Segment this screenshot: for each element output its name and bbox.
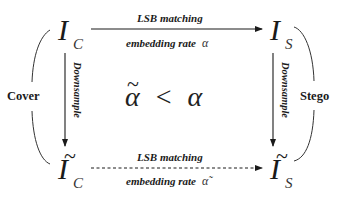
less-than-operator: < — [156, 83, 172, 111]
rate-alpha-tilde: α̃ — [202, 174, 208, 188]
stego-group-label: Stego — [300, 90, 329, 103]
cover-bracket-bottom — [32, 111, 50, 164]
bottom-edge-label-above: LSB matching — [137, 152, 203, 163]
top-edge-label-below: embedding rateα — [126, 37, 208, 49]
cover-group-label: Cover — [7, 90, 40, 103]
cover-image-subscript: C — [73, 36, 83, 52]
rate-relation: ~α<α — [125, 83, 202, 111]
right-downsample-label: Downsample — [280, 62, 291, 118]
cover-bracket-top — [32, 30, 50, 82]
tilde-accent: ~ — [276, 145, 288, 167]
embedding-rate-text: embedding rate — [126, 37, 196, 49]
left-downsample-label: Downsample — [72, 62, 83, 118]
downsampled-cover-node: ~ IC — [58, 154, 83, 184]
cover-image-symbol: I — [58, 13, 68, 46]
alpha-symbol: α — [188, 83, 203, 111]
tilde-accent: ~ — [127, 73, 139, 95]
stego-image-subscript: S — [285, 36, 293, 52]
stego-image-symbol: I — [270, 13, 280, 46]
downsampled-stego-node: ~ IS — [270, 154, 293, 184]
stego-bracket-bottom — [294, 110, 314, 161]
bottom-edge-label-below: embedding rateα̃ — [126, 175, 208, 187]
tilde-accent: ~ — [64, 145, 76, 167]
downsampled-cover-subscript: C — [73, 175, 83, 191]
stego-bracket-top — [294, 27, 314, 81]
embedding-rate-text: embedding rate — [126, 175, 196, 187]
diagram-canvas: IC IS ~ IC ~ IS LSB matching embedding r… — [0, 0, 348, 197]
downsampled-stego-subscript: S — [285, 175, 293, 191]
cover-image-node: IC — [58, 15, 83, 45]
alpha-tilde-symbol: ~α — [125, 83, 140, 111]
stego-image-node: IS — [270, 15, 293, 45]
top-edge-label-above: LSB matching — [137, 13, 203, 24]
rate-alpha: α — [202, 36, 208, 50]
